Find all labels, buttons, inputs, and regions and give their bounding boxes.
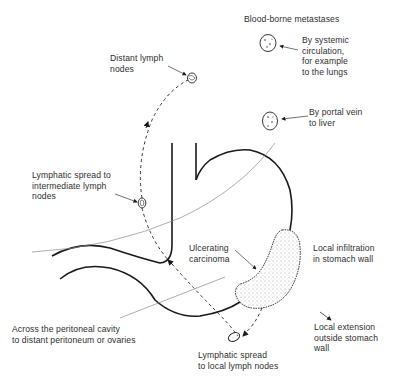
- label-blood-borne-metastases: Blood-borne metastases: [244, 14, 339, 25]
- label-distant-lymph-nodes: Distant lymph nodes: [110, 53, 163, 74]
- gastric-carcinoma-spread-diagram: Blood-borne metastases By systemic circu…: [0, 0, 397, 379]
- intermediate-lymph-node: [138, 198, 146, 208]
- metastasis-nodes: [260, 35, 278, 131]
- label-ulcerating-carcinoma: Ulcerating carcinoma: [189, 243, 230, 264]
- label-peritoneal-spread: Across the peritoneal cavity to distant …: [12, 324, 136, 345]
- liver-metastasis: [263, 112, 278, 130]
- label-portal-vein: By portal vein to liver: [309, 107, 362, 128]
- label-systemic-circulation: By systemic circulation, for example to …: [302, 35, 349, 77]
- label-intermediate-lymph: Lymphatic spread to intermediate lymph n…: [32, 170, 111, 202]
- leader-lines: [115, 46, 331, 320]
- lung-metastasis: [260, 35, 276, 52]
- esophagus: [52, 143, 196, 263]
- label-local-infiltration: Local infiltration in stomach wall: [313, 243, 375, 264]
- label-local-lymph-nodes: Lymphatic spread to local lymph nodes: [198, 350, 278, 371]
- local-lymph-node: [227, 331, 241, 343]
- label-local-extension: Local extension outside stomach wall: [314, 322, 378, 354]
- carcinoma-mass: [235, 230, 300, 309]
- lymph-nodes: [138, 73, 241, 343]
